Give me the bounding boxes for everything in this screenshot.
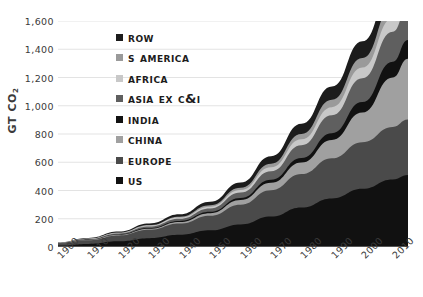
legend-item: Africa [116, 68, 266, 89]
y-tick-label: 1,200 [10, 72, 54, 83]
y-axis-tick-labels: 02004006008001,0001,2001,4001,600 [8, 0, 54, 297]
y-tick-label: 800 [10, 129, 54, 140]
legend-item: China [116, 130, 266, 151]
y-tick-label: 1,600 [10, 16, 54, 27]
legend-swatch-icon [116, 116, 123, 123]
legend-swatch-icon [116, 157, 123, 164]
legend-item-label: India [128, 112, 159, 127]
y-tick-label: 200 [10, 213, 54, 224]
legend-item-label: US [128, 173, 143, 188]
legend-item: Asia ex C&I [116, 89, 266, 110]
legend-swatch-icon [116, 34, 123, 41]
emissions-area-chart: GT CO2 02004006008001,0001,2001,4001,600… [0, 0, 423, 297]
legend-item: India [116, 109, 266, 130]
legend-item: ROW [116, 27, 266, 48]
legend-item: S America [116, 48, 266, 69]
legend-item: US [116, 171, 266, 192]
y-tick-label: 600 [10, 157, 54, 168]
legend-item-label: Europe [128, 153, 172, 168]
legend-item-label: Africa [128, 71, 168, 86]
legend-item: Europe [116, 150, 266, 171]
legend-item-label: S America [128, 50, 189, 65]
legend-item-label: Asia ex C&I [128, 91, 201, 106]
chart-legend: ROWS AmericaAfricaAsia ex C&IIndiaChinaE… [116, 27, 266, 191]
legend-swatch-icon [116, 136, 123, 143]
legend-swatch-icon [116, 177, 123, 184]
y-tick-label: 400 [10, 185, 54, 196]
legend-swatch-icon [116, 95, 123, 102]
legend-item-label: China [128, 132, 162, 147]
legend-swatch-icon [116, 75, 123, 82]
y-tick-label: 0 [10, 242, 54, 253]
legend-item-label: ROW [128, 30, 154, 45]
legend-swatch-icon [116, 54, 123, 61]
y-tick-label: 1,400 [10, 44, 54, 55]
y-tick-label: 1,000 [10, 100, 54, 111]
